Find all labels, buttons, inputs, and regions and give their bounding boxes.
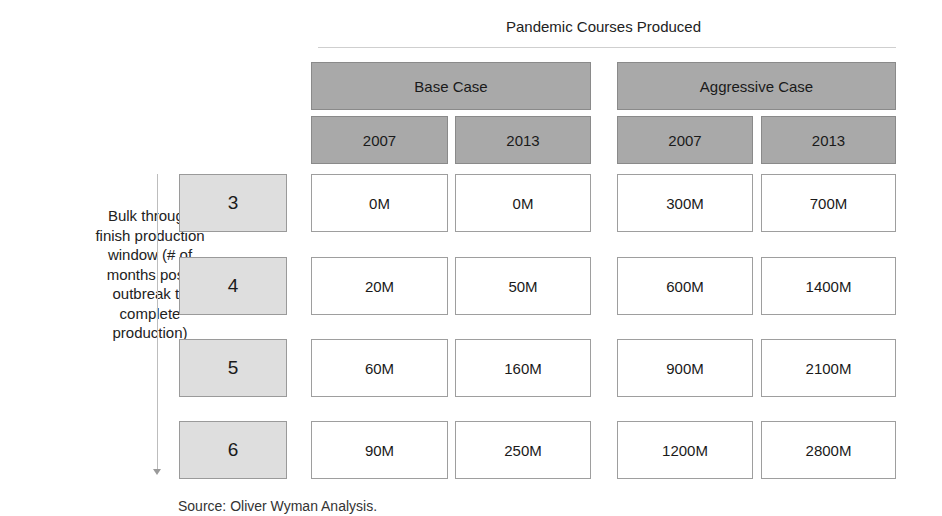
header-aggressive-2007: 2007 bbox=[617, 116, 753, 164]
table-cell: 2800M bbox=[761, 421, 896, 479]
header-base-2007: 2007 bbox=[311, 116, 448, 164]
table-cell: 90M bbox=[311, 421, 448, 479]
table-cell: 900M bbox=[617, 339, 753, 397]
source-note: Source: Oliver Wyman Analysis. bbox=[178, 498, 377, 514]
table-cell: 1400M bbox=[761, 257, 896, 315]
row-header-3: 3 bbox=[179, 174, 287, 232]
chart-title: Pandemic Courses Produced bbox=[311, 18, 896, 35]
row-header-5: 5 bbox=[179, 339, 287, 397]
table-cell: 60M bbox=[311, 339, 448, 397]
table-cell: 0M bbox=[311, 174, 448, 232]
table-cell: 700M bbox=[761, 174, 896, 232]
table-cell: 50M bbox=[455, 257, 591, 315]
table-cell: 0M bbox=[455, 174, 591, 232]
row-header-6: 6 bbox=[179, 421, 287, 479]
header-base-2013: 2013 bbox=[455, 116, 591, 164]
row-header-4: 4 bbox=[179, 257, 287, 315]
table-cell: 300M bbox=[617, 174, 753, 232]
table-cell: 1200M bbox=[617, 421, 753, 479]
table-cell: 20M bbox=[311, 257, 448, 315]
header-base-case: Base Case bbox=[311, 62, 591, 110]
arrow-down-icon bbox=[153, 469, 161, 475]
header-aggressive-case: Aggressive Case bbox=[617, 62, 896, 110]
table-cell: 600M bbox=[617, 257, 753, 315]
row-axis-arrow-line bbox=[157, 174, 158, 470]
table-cell: 160M bbox=[455, 339, 591, 397]
table-cell: 2100M bbox=[761, 339, 896, 397]
table-cell: 250M bbox=[455, 421, 591, 479]
title-divider bbox=[318, 47, 896, 48]
header-aggressive-2013: 2013 bbox=[761, 116, 896, 164]
